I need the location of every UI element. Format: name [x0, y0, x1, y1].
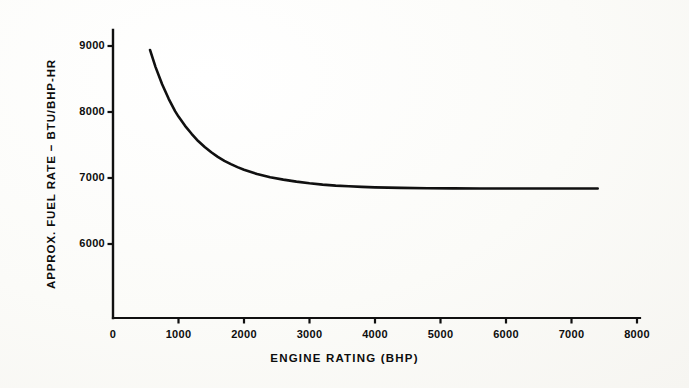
x-tick-label: 0: [83, 328, 143, 340]
y-tick-label: 9000: [55, 39, 105, 51]
x-tick-label: 4000: [345, 328, 405, 340]
chart-tick-marks: [108, 46, 638, 324]
chart-series-lines: [150, 50, 598, 189]
x-tick-label: 2000: [214, 328, 274, 340]
x-tick-label: 7000: [542, 328, 602, 340]
x-tick-label: 5000: [411, 328, 471, 340]
y-axis-title: APPROX. FUEL RATE − BTU/BHP-HR: [45, 59, 57, 289]
x-tick-label: 1000: [149, 328, 209, 340]
chart-figure: 6000700080009000 01000200030004000500060…: [0, 0, 689, 388]
y-tick-label: 7000: [55, 171, 105, 183]
y-tick-label: 6000: [55, 237, 105, 249]
x-tick-label: 8000: [607, 328, 667, 340]
chart-line-0: [150, 50, 598, 189]
chart-axes: [113, 30, 640, 318]
y-tick-label: 8000: [55, 105, 105, 117]
x-axis-title: ENGINE RATING (BHP): [0, 352, 689, 364]
x-tick-label: 3000: [280, 328, 340, 340]
x-tick-label: 6000: [476, 328, 536, 340]
